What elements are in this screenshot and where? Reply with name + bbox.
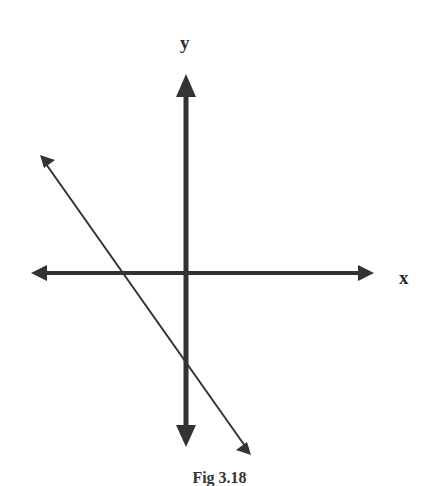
x-axis-left-arrow-icon bbox=[31, 265, 47, 281]
x-axis-right-arrow-icon bbox=[358, 265, 374, 281]
figure-caption: Fig 3.18 bbox=[0, 470, 439, 486]
y-axis-label: y bbox=[180, 33, 190, 52]
y-axis bbox=[176, 74, 196, 447]
x-axis bbox=[31, 265, 374, 281]
y-axis-down-arrow-icon bbox=[176, 425, 196, 447]
slanted-line bbox=[40, 155, 251, 455]
x-axis-label: x bbox=[399, 268, 409, 287]
y-axis-up-arrow-icon bbox=[176, 74, 196, 97]
